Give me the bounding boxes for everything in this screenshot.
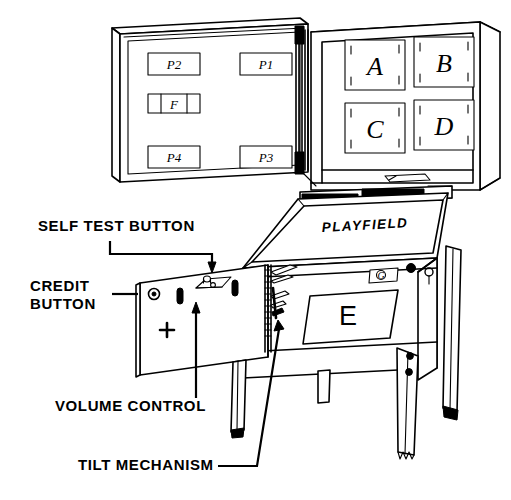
module-label-b: B [436,49,452,78]
leg-front-left [231,360,246,438]
leg-front-right [397,348,418,459]
backbox-floor-tray [385,174,430,182]
front-panel-label-e: E [339,301,357,331]
board-label-p2: P2 [166,57,182,72]
module-label-d: D [434,112,454,141]
leg-rear-left [318,370,330,403]
leader-self-test [110,241,212,262]
callout-self-test-button: SELF TEST BUTTON [38,217,195,234]
diagram-canvas: P2 P1 P4 P3 F A B C D PLAYFIELD E G SELF… [0,0,511,500]
callout-credit-button-line1: CREDIT [30,277,89,294]
coin-slot-opening-right [232,280,238,296]
module-label-c: C [366,115,384,144]
badge-label-g: G [377,270,384,281]
module-label-a: A [365,52,383,81]
callout-credit-button-line2: BUTTON [30,295,96,312]
callout-tilt-mechanism: TILT MECHANISM [78,456,214,473]
leg-rear-right [443,246,461,420]
lock-stud-icon [407,264,416,273]
coin-slot-opening-left [177,288,183,304]
board-label-p1: P1 [258,57,273,72]
callout-volume-control: VOLUME CONTROL [55,397,206,414]
board-label-p4: P4 [166,150,182,165]
board-label-p3: P3 [258,150,274,165]
pinball-service-diagram: P2 P1 P4 P3 F A B C D PLAYFIELD E G SELF… [0,0,511,500]
coin-door-open[interactable] [136,265,268,377]
fuse-label-f: F [169,97,179,112]
